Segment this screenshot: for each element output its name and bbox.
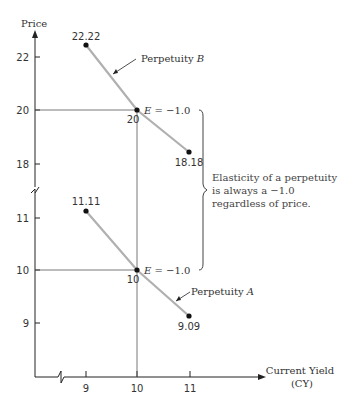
elasticity-b: E = −1.0 [143,105,190,116]
x-tick-11: 11 [184,383,197,394]
y-tick-20: 20 [16,105,29,116]
y-axis-label: Price [21,18,47,29]
label-b3: 18.18 [175,157,204,168]
point-b2 [134,107,139,112]
point-b1 [83,42,88,47]
point-a1 [83,208,88,213]
y-tick-9: 9 [23,318,29,329]
chart-canvas: 22 20 18 11 10 9 9 10 11 Price Current Y… [0,0,353,409]
arrow-a-icon [176,296,181,301]
x-axis-label-line1: Current Yield [266,365,335,376]
point-a3 [186,313,191,318]
label-a2: 10 [127,274,140,285]
y-tick-11: 11 [16,213,29,224]
label-a1: 11.11 [72,196,101,207]
point-b3 [186,149,191,154]
series-b-name: Perpetuity B [141,53,204,64]
elasticity-a: E = −1.0 [143,265,190,276]
series-perpetuity-a: 11.11 10 9.09 Perpetuity A E = −1.0 [72,196,254,332]
note-line3: regardless of price. [212,198,311,209]
label-b2: 20 [127,114,140,125]
y-tick-10: 10 [16,265,29,276]
note-line1: Elasticity of a perpetuity [212,172,338,183]
x-axis-arrow-icon [258,374,266,380]
annotation: Elasticity of a perpetuity is always a −… [212,172,338,209]
y-axis-arrow-icon [32,30,38,38]
y-tick-22: 22 [16,52,29,63]
y-tick-18: 18 [16,159,29,170]
y-axis-break-icon [31,187,39,193]
reference-lines [35,110,137,377]
label-a3: 9.09 [178,321,200,332]
label-b1: 22.22 [72,31,101,42]
arrow-b-icon [113,69,118,74]
y-axis [31,30,39,377]
series-perpetuity-b: 22.22 20 18.18 Perpetuity B E = −1.0 [72,31,204,168]
point-a2 [134,267,139,272]
x-ticks: 9 10 11 [83,371,197,394]
x-axis [35,371,266,383]
series-a-name: Perpetuity A [191,286,254,297]
brace-icon [199,110,207,270]
x-tick-9: 9 [83,383,89,394]
x-axis-break-icon [58,371,64,383]
x-axis-label-line2: (CY) [291,378,313,389]
x-tick-10: 10 [131,383,144,394]
note-line2: is always a −1.0 [212,185,295,196]
